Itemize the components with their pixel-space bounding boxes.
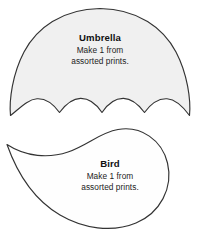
- bird-instruction-line-2: assorted prints.: [54, 182, 166, 193]
- bird-label-group: Bird Make 1 from assorted prints.: [54, 158, 166, 192]
- umbrella-label-group: Umbrella Make 1 from assorted prints.: [44, 32, 156, 66]
- umbrella-instruction-line-2: assorted prints.: [44, 56, 156, 67]
- umbrella-title: Umbrella: [44, 32, 156, 44]
- bird-title: Bird: [54, 158, 166, 170]
- umbrella-instruction-line-1: Make 1 from: [44, 45, 156, 56]
- bird-instruction-line-1: Make 1 from: [54, 171, 166, 182]
- pattern-sheet: Umbrella Make 1 from assorted prints. Bi…: [0, 0, 200, 243]
